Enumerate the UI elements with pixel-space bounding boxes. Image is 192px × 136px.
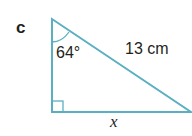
triangle	[52, 19, 191, 112]
angle-arc	[52, 32, 69, 42]
question-part-label: c	[16, 18, 25, 38]
angle-label: 64°	[56, 44, 80, 62]
right-angle-marker	[52, 101, 63, 112]
hypotenuse-label: 13 cm	[125, 40, 169, 58]
triangle-diagram	[0, 0, 192, 136]
base-label: x	[110, 112, 118, 132]
